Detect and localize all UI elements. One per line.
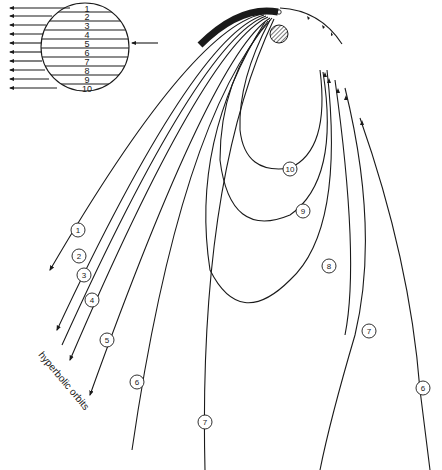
orbit-label-2: 2 xyxy=(72,249,86,263)
nucleus xyxy=(270,25,288,43)
orbit-diagram: 1 2 3 4 5 6 7 8 9 10 xyxy=(0,0,442,470)
svg-text:1: 1 xyxy=(76,226,81,235)
svg-text:4: 4 xyxy=(90,296,95,305)
svg-text:7: 7 xyxy=(367,327,372,336)
orbit-label-7-left: 7 xyxy=(198,415,212,429)
orbit-label-6-right: 6 xyxy=(416,381,430,395)
orbit-label-5: 5 xyxy=(100,333,114,347)
svg-text:7: 7 xyxy=(203,418,208,427)
orbit-label-6-left: 6 xyxy=(130,375,144,389)
svg-text:8: 8 xyxy=(327,262,332,271)
svg-text:9: 9 xyxy=(301,207,306,216)
orbit-label-1: 1 xyxy=(71,223,85,237)
strip-label-10: 10 xyxy=(82,84,92,94)
svg-text:5: 5 xyxy=(105,336,110,345)
svg-text:6: 6 xyxy=(135,378,140,387)
orbit-label-8: 8 xyxy=(322,259,336,273)
beam-cross-section: 1 2 3 4 5 6 7 8 9 10 xyxy=(30,3,140,94)
returning-orbits xyxy=(132,18,430,470)
orbit-label-7-right: 7 xyxy=(362,324,376,338)
svg-text:10: 10 xyxy=(286,165,295,174)
orbit-label-9: 9 xyxy=(296,204,310,218)
orbit-label-3: 3 xyxy=(77,268,91,282)
orbit-label-10: 10 xyxy=(283,162,297,176)
orbit-labels: 1 2 3 4 5 6 7 8 9 10 7 6 xyxy=(71,162,430,429)
svg-text:2: 2 xyxy=(77,252,82,261)
orbit-label-4: 4 xyxy=(85,293,99,307)
hyperbolic-orbits-label: hyperbolic orbits xyxy=(36,349,91,412)
svg-text:3: 3 xyxy=(82,271,87,280)
svg-text:6: 6 xyxy=(421,384,426,393)
